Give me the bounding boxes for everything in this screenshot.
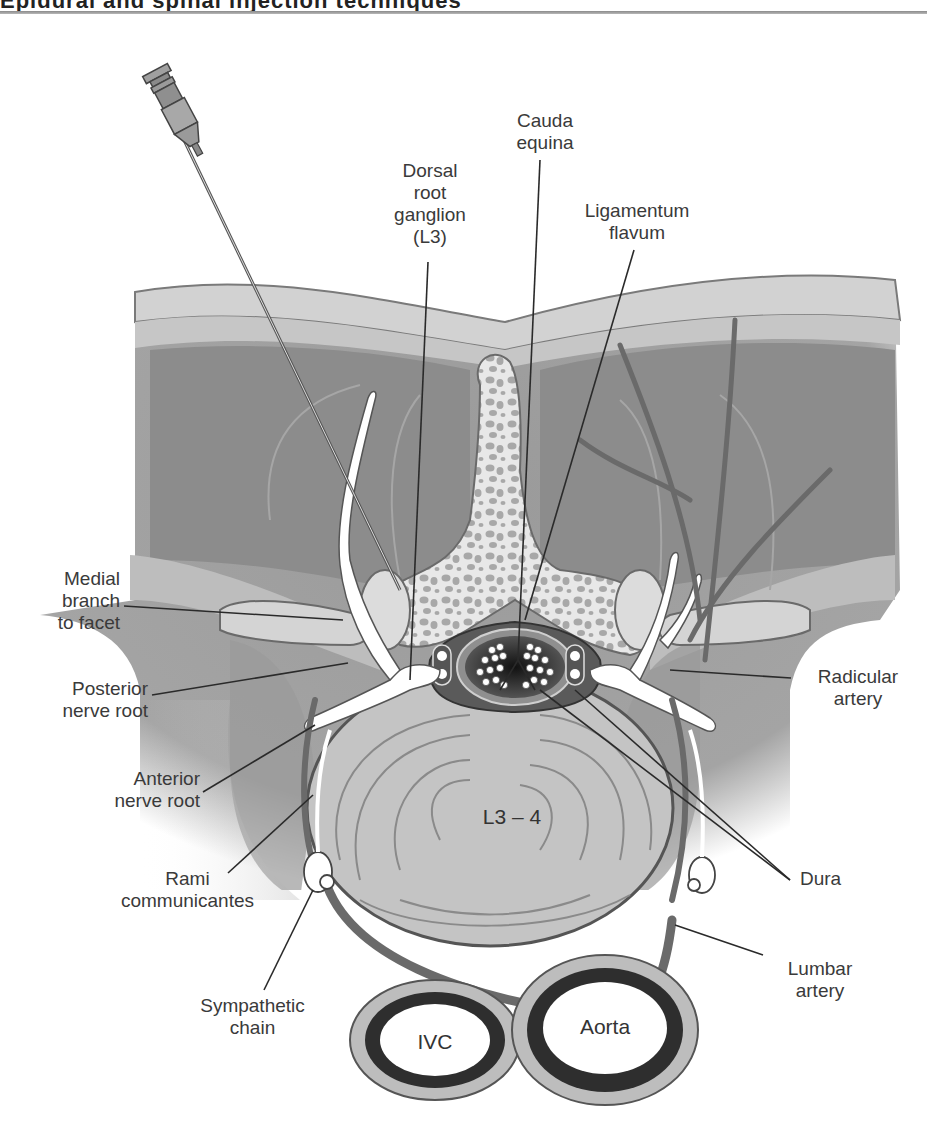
- label-ligamentum-flavum: Ligamentum flavum: [572, 200, 702, 244]
- label-anterior-nerve-root: Anterior nerve root: [60, 768, 200, 812]
- label-posterior-nerve-root: Posterior nerve root: [20, 678, 148, 722]
- disc-label: L3 – 4: [483, 805, 542, 828]
- label-dorsal-root-ganglion: Dorsal root ganglion (L3): [380, 160, 480, 248]
- label-medial-branch: Medial branch to facet: [20, 568, 120, 634]
- label-rami-communicantes: Rami communicantes: [100, 868, 275, 912]
- ivc: IVC: [350, 980, 520, 1100]
- label-cauda-equina: Cauda equina: [500, 110, 590, 154]
- aorta-label: Aorta: [580, 1015, 631, 1038]
- label-lumbar-artery: Lumbar artery: [770, 958, 870, 1002]
- label-dura: Dura: [800, 868, 880, 890]
- aorta: Aorta: [512, 955, 698, 1105]
- ivc-label: IVC: [417, 1030, 452, 1053]
- label-sympathetic-chain: Sympathetic chain: [180, 995, 325, 1039]
- label-radicular-artery: Radicular artery: [798, 666, 918, 710]
